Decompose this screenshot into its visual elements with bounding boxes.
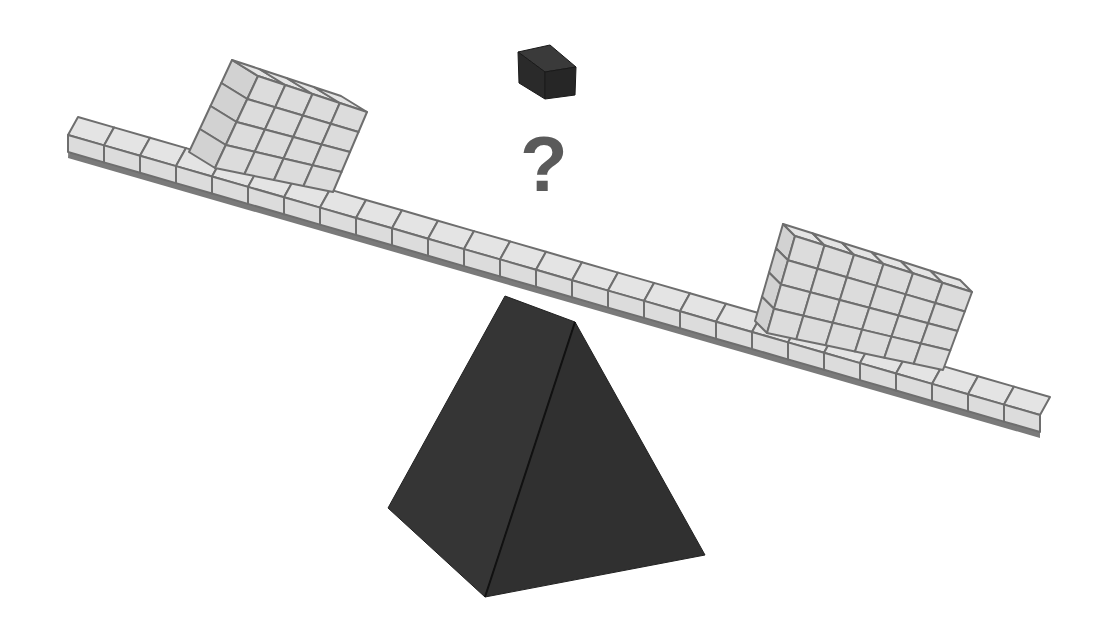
balance-scale-illustration (0, 0, 1105, 640)
question-mark: ? (520, 125, 568, 203)
mystery-cube-icon (518, 45, 576, 99)
fulcrum-pyramid (388, 296, 705, 597)
